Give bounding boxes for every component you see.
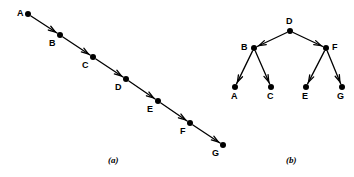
node-dot-F[interactable] [187, 120, 193, 126]
edge-line [96, 59, 123, 77]
node-dot-A[interactable] [232, 84, 238, 90]
edge-F-G [193, 125, 220, 143]
panel-a [25, 11, 226, 148]
edge-B-A [237, 51, 253, 84]
edge-line [129, 81, 155, 99]
node-label-D: D [115, 83, 122, 92]
node-label-F: F [180, 127, 186, 136]
node-dot-C[interactable] [90, 54, 96, 60]
node-label-F: F [332, 43, 338, 52]
edge-B-C [63, 37, 90, 55]
node-label-D: D [286, 17, 293, 26]
node-dot-A[interactable] [25, 11, 31, 17]
node-dot-G[interactable] [220, 142, 226, 148]
edge-B-C [255, 51, 269, 84]
node-dot-E[interactable] [155, 98, 161, 104]
edge-E-F [161, 103, 187, 121]
edge-D-E [129, 81, 155, 99]
node-label-E: E [302, 92, 308, 101]
caption-panel-b: (b) [286, 156, 297, 165]
node-dot-F[interactable] [323, 45, 329, 51]
node-dot-E[interactable] [303, 84, 309, 90]
node-label-A: A [17, 9, 24, 18]
figure-canvas [0, 0, 354, 177]
node-dot-D[interactable] [123, 76, 129, 82]
node-label-B: B [241, 43, 248, 52]
edge-line [257, 32, 287, 46]
panel-b [232, 28, 345, 90]
edge-F-G [327, 51, 340, 84]
node-label-G: G [212, 149, 219, 158]
edge-line [31, 16, 57, 33]
edge-line [161, 103, 187, 121]
edge-line [63, 37, 90, 55]
node-label-E: E [147, 105, 153, 114]
edge-D-F [293, 32, 323, 46]
node-label-B: B [49, 39, 56, 48]
node-dot-C[interactable] [268, 84, 274, 90]
edge-C-D [96, 59, 123, 77]
node-dot-D[interactable] [287, 28, 293, 34]
edge-line [308, 51, 325, 84]
node-label-C: C [267, 92, 274, 101]
node-dot-B[interactable] [57, 32, 63, 38]
edge-line [237, 51, 253, 84]
edge-D-B [257, 32, 287, 46]
caption-panel-a: (a) [108, 156, 119, 165]
edge-F-E [308, 51, 325, 84]
edge-line [255, 51, 269, 84]
figure-root: ABCDEFG(a)DBFACEG(b) [0, 0, 354, 177]
node-label-G: G [337, 92, 344, 101]
edge-A-B [31, 16, 57, 33]
edge-line [327, 51, 340, 84]
edge-line [193, 125, 220, 143]
node-dot-B[interactable] [251, 45, 257, 51]
edge-line [293, 32, 323, 46]
node-label-A: A [231, 92, 238, 101]
node-label-C: C [82, 61, 89, 70]
node-dot-G[interactable] [339, 84, 345, 90]
